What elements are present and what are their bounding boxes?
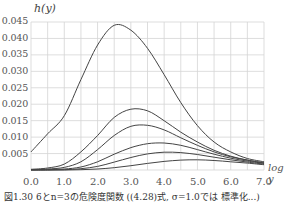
grid-lines bbox=[31, 22, 264, 170]
x-tick: 2.0 bbox=[86, 176, 110, 187]
figure-caption: 図1.30 6とn=3の危険度関数 ((4.28)式, σ=1.0では 標準化.… bbox=[4, 190, 260, 202]
x-tick: 5.0 bbox=[186, 176, 210, 187]
x-tick: 0.0 bbox=[19, 176, 43, 187]
x-tick: 6.0 bbox=[219, 176, 243, 187]
plot-area bbox=[0, 0, 287, 202]
x-tick: 4.0 bbox=[152, 176, 176, 187]
x-tick: 1.0 bbox=[52, 176, 76, 187]
x-axis-title: log y bbox=[268, 162, 287, 184]
x-tick: 3.0 bbox=[119, 176, 143, 187]
